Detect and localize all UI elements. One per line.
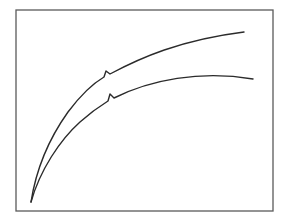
curve-chart (0, 0, 287, 222)
upper-curve (31, 32, 244, 202)
lower-curve (31, 76, 253, 202)
chart-frame (16, 10, 273, 211)
